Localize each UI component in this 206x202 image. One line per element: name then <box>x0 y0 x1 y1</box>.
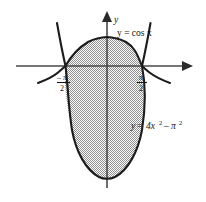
parabola-label-exponent-a: 2 <box>159 119 162 126</box>
y-axis-label: y <box>113 15 119 25</box>
parabola-label-exponent-b: 2 <box>179 119 182 126</box>
parabola-label-4x: 4x <box>146 121 156 131</box>
figure-canvas: y = cos x y – π 2 π 2 y = 4x <box>0 0 206 202</box>
tick-right-denominator: 2 <box>139 84 143 93</box>
parabola-label-pi: π <box>171 121 176 131</box>
parabola-label-y: y <box>130 121 136 131</box>
y-axis-arrowhead <box>102 11 112 22</box>
tick-left-sign: – <box>56 73 62 82</box>
x-axis-arrowhead <box>182 61 193 71</box>
tick-left-denominator: 2 <box>60 84 64 93</box>
parabola-label-minus: – <box>163 121 169 131</box>
cosine-label: y = cos x <box>117 28 152 38</box>
math-figure: y = cos x y – π 2 π 2 y = 4x <box>0 0 206 202</box>
parabola-label: y = 4x 2 – π 2 <box>130 119 182 132</box>
parabola-label-equals: = <box>137 121 142 131</box>
